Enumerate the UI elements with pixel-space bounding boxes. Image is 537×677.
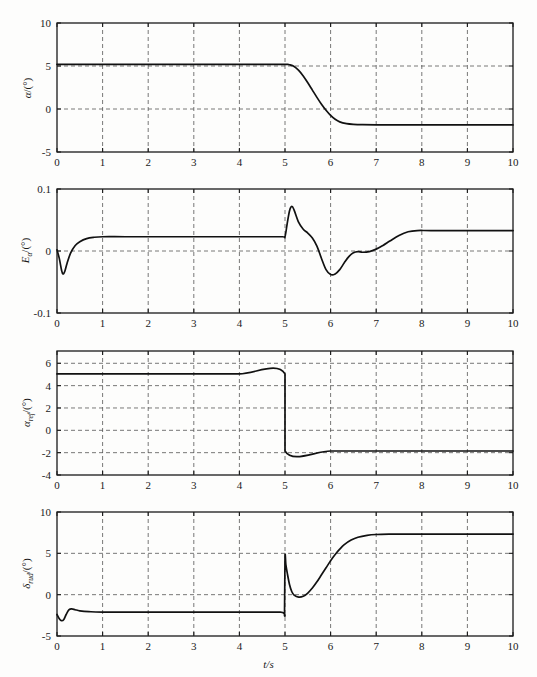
- y-tick-label: 6: [46, 357, 52, 369]
- y-tick-label: -5: [42, 146, 52, 158]
- x-tick-label: 6: [328, 640, 334, 652]
- x-tick-label: 0: [54, 317, 60, 329]
- x-tick-label: 9: [465, 317, 471, 329]
- x-tick-label: 2: [145, 640, 151, 652]
- x-tick-label: 10: [508, 317, 520, 329]
- y-tick-label: -5: [42, 630, 52, 642]
- x-tick-label: 0: [54, 640, 60, 652]
- x-tick-label: 1: [100, 156, 106, 168]
- x-tick-label: 4: [237, 640, 243, 652]
- x-tick-label: 6: [328, 156, 334, 168]
- x-tick-label: 7: [373, 640, 379, 652]
- y-tick-label: 0.1: [37, 183, 51, 195]
- x-tick-label: 8: [419, 479, 425, 491]
- x-tick-label: 3: [191, 479, 197, 491]
- y-tick-label: 0: [46, 589, 52, 601]
- y-axis-label: αref/(°): [12, 383, 42, 443]
- x-tick-label: 0: [54, 156, 60, 168]
- x-axis-label: t/s: [0, 658, 537, 670]
- y-tick-label: 0: [46, 103, 52, 115]
- y-tick-label: 0: [46, 245, 52, 257]
- y-tick-label: 0: [46, 424, 52, 436]
- x-tick-label: 4: [237, 317, 243, 329]
- plot-area-2: 012345678910-4-20246: [0, 342, 537, 497]
- data-curve-alpha_ref: [57, 368, 513, 457]
- x-tick-label: 2: [145, 479, 151, 491]
- y-tick-label: 5: [46, 60, 52, 72]
- y-tick-label: -0.1: [34, 307, 51, 319]
- y-tick-label: 10: [40, 506, 52, 518]
- panel-alpha: 012345678910-50510α/(°): [0, 14, 537, 174]
- x-tick-label: 5: [282, 317, 288, 329]
- figure-container: 012345678910-50510α/(°) 012345678910-0.1…: [0, 0, 537, 677]
- x-tick-label: 1: [100, 479, 106, 491]
- x-tick-label: 10: [508, 640, 520, 652]
- y-tick-label: 5: [46, 547, 52, 559]
- x-tick-label: 10: [508, 479, 520, 491]
- x-tick-label: 10: [508, 156, 520, 168]
- y-axis-label-text: Eα/(°): [19, 238, 34, 263]
- x-tick-label: 1: [100, 317, 106, 329]
- x-tick-label: 7: [373, 317, 379, 329]
- x-tick-label: 8: [419, 317, 425, 329]
- y-axis-label-text: δrud/(°): [19, 559, 34, 589]
- panel-alpha-ref: 012345678910-4-20246αref/(°): [0, 342, 537, 497]
- x-tick-label: 7: [373, 156, 379, 168]
- y-axis-label: δrud/(°): [12, 544, 42, 604]
- x-tick-label: 5: [282, 156, 288, 168]
- y-axis-label: α/(°): [12, 58, 42, 118]
- x-tick-label: 2: [145, 317, 151, 329]
- x-tick-label: 3: [191, 156, 197, 168]
- x-tick-label: 8: [419, 156, 425, 168]
- panel-delta-rud: 012345678910-50510δrud/(°): [0, 503, 537, 658]
- x-tick-label: 9: [465, 640, 471, 652]
- x-tick-label: 8: [419, 640, 425, 652]
- plot-area-1: 012345678910-0.100.1: [0, 180, 537, 335]
- y-tick-label: 10: [40, 17, 52, 29]
- y-axis-label-text: α/(°): [21, 77, 33, 98]
- x-tick-label: 3: [191, 317, 197, 329]
- x-tick-label: 0: [54, 479, 60, 491]
- y-tick-label: 4: [46, 380, 52, 392]
- x-tick-label: 4: [237, 479, 243, 491]
- panel-error-alpha: 012345678910-0.100.1Eα/(°): [0, 180, 537, 335]
- y-axis-label: Eα/(°): [12, 221, 42, 281]
- x-tick-label: 5: [282, 479, 288, 491]
- x-tick-label: 2: [145, 156, 151, 168]
- x-tick-label: 5: [282, 640, 288, 652]
- x-tick-label: 9: [465, 156, 471, 168]
- x-tick-label: 3: [191, 640, 197, 652]
- x-tick-label: 4: [237, 156, 243, 168]
- y-tick-label: 2: [46, 402, 52, 414]
- plot-area-0: 012345678910-50510: [0, 14, 537, 174]
- x-tick-label: 7: [373, 479, 379, 491]
- x-tick-label: 9: [465, 479, 471, 491]
- y-tick-label: -2: [42, 447, 51, 459]
- x-tick-label: 6: [328, 479, 334, 491]
- x-tick-label: 6: [328, 317, 334, 329]
- y-axis-label-text: αref/(°): [19, 399, 34, 428]
- y-tick-label: -4: [42, 469, 52, 481]
- x-tick-label: 1: [100, 640, 106, 652]
- plot-area-3: 012345678910-50510: [0, 503, 537, 658]
